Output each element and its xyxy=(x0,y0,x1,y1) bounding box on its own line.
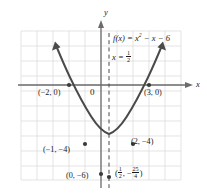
function-rest: − x − 6 xyxy=(142,33,170,43)
point-label-x-intercept-left: (−2, 0) xyxy=(38,89,60,97)
symmetry-prefix: x = xyxy=(112,52,126,62)
vertex-comma: , − xyxy=(123,169,132,178)
symmetry-denominator: 2 xyxy=(126,57,130,63)
vertex-x-denominator: 2 xyxy=(118,173,122,179)
function-equation-label: f(x) = x2 − x − 6 xyxy=(113,33,170,42)
origin-label: 0 xyxy=(90,88,95,97)
function-arg: (x) = x xyxy=(115,33,138,43)
point-marker xyxy=(67,83,71,87)
vertex-marker xyxy=(107,175,111,179)
point-label-right-mid: (2, −4) xyxy=(131,138,153,146)
vertex-y-denominator: 4 xyxy=(132,173,139,179)
y-axis-label: y xyxy=(104,8,108,17)
x-axis-label: x xyxy=(196,80,200,89)
vertex-close-paren: ) xyxy=(140,169,143,178)
point-label-x-intercept-right: (3, 0) xyxy=(144,89,162,97)
parabola-plot xyxy=(0,0,207,196)
graph-figure: y x 0 f(x) = x2 − x − 6 x = 12 (−2, 0) (… xyxy=(0,0,207,196)
point-marker xyxy=(83,142,87,146)
point-marker xyxy=(99,172,103,176)
vertex-y-fraction: 254 xyxy=(132,166,139,180)
point-marker xyxy=(147,83,151,87)
vertex-x-fraction: 12 xyxy=(118,166,122,180)
axis-of-symmetry-label: x = 12 xyxy=(112,50,131,64)
vertex-label: (12, −254) xyxy=(115,166,142,180)
point-label-left-mid: (−1, −4) xyxy=(43,146,70,154)
y-axis xyxy=(98,20,104,188)
symmetry-fraction: 12 xyxy=(126,50,130,64)
point-label-y-intercept: (0, −6) xyxy=(66,172,88,180)
